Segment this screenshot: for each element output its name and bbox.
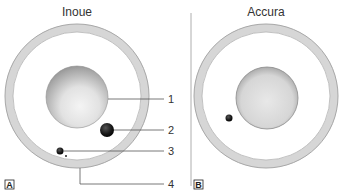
callout-1: 1 [168, 93, 174, 105]
panel-b-title: Accura [247, 5, 285, 19]
callout-2: 2 [168, 124, 174, 136]
panel-a-letter-box: A [5, 180, 14, 190]
panel-b: Accura B [194, 5, 338, 190]
inner-sphere-b [236, 67, 298, 129]
callout-4: 4 [168, 178, 174, 190]
callout-3: 3 [168, 145, 174, 157]
panel-a-title: Inoue [62, 5, 92, 19]
comparison-diagram: Inoue 1 2 3 4 A Accura [0, 0, 342, 195]
large-particle [100, 123, 114, 137]
inner-sphere [46, 66, 108, 128]
small-particle-b [226, 115, 233, 122]
panel-a-letter: A [6, 180, 13, 190]
panel-b-letter: B [195, 180, 202, 190]
tiny-speck [65, 155, 67, 157]
small-particle [57, 148, 64, 155]
panel-a: Inoue 1 2 3 4 A [5, 5, 174, 190]
panel-b-letter-box: B [194, 180, 203, 190]
